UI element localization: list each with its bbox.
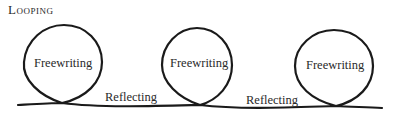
- connector-label-2: Reflecting: [246, 93, 299, 107]
- loop-label-3: Freewriting: [306, 58, 365, 72]
- looping-diagram: Freewriting Freewriting Freewriting Refl…: [0, 0, 398, 115]
- connector-label-1: Reflecting: [105, 90, 158, 104]
- loop-label-1: Freewriting: [34, 56, 93, 70]
- loop-label-2: Freewriting: [170, 56, 229, 70]
